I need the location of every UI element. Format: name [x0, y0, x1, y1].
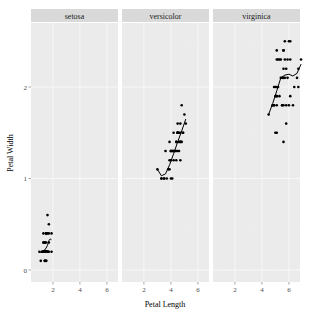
- data-point: [284, 40, 287, 43]
- data-point: [163, 177, 166, 180]
- data-point: [300, 58, 303, 61]
- faceted-scatter-chart: setosa246versicolor246virginica246 012 P…: [0, 0, 310, 318]
- data-point: [42, 232, 45, 235]
- facet-virginica: virginica246: [213, 9, 302, 294]
- data-point: [296, 77, 299, 80]
- x-tick-label: 4: [260, 286, 264, 294]
- strip-label: setosa: [65, 12, 85, 21]
- y-tick-label: 1: [24, 175, 28, 183]
- data-point: [160, 177, 163, 180]
- x-tick-label: 2: [51, 286, 55, 294]
- x-axis-title: Petal Length: [145, 300, 186, 309]
- facet-versicolor: versicolor246: [122, 9, 209, 294]
- data-point: [176, 131, 179, 134]
- data-point: [183, 113, 186, 116]
- y-axis: 012: [24, 84, 32, 275]
- y-tick-label: 2: [24, 84, 28, 92]
- data-point: [282, 141, 285, 144]
- data-point: [44, 260, 47, 263]
- data-point: [164, 150, 167, 153]
- strip-label: virginica: [242, 12, 271, 21]
- data-point: [281, 104, 284, 107]
- data-point: [175, 159, 178, 162]
- data-point: [285, 104, 288, 107]
- data-point: [275, 104, 278, 107]
- data-point: [178, 150, 181, 153]
- data-point: [277, 58, 280, 61]
- data-point: [46, 214, 49, 217]
- panel-background: [122, 23, 209, 282]
- facet-panels: setosa246versicolor246virginica246: [31, 9, 302, 294]
- data-point: [288, 104, 291, 107]
- data-point: [166, 177, 169, 180]
- data-point: [284, 58, 287, 61]
- data-point: [275, 49, 278, 52]
- data-point: [48, 223, 51, 226]
- data-point: [44, 241, 47, 244]
- x-tick-label: 6: [196, 286, 200, 294]
- y-axis-title: Petal Width: [6, 134, 15, 172]
- data-point: [280, 58, 283, 61]
- data-point: [50, 250, 53, 253]
- data-point: [180, 141, 183, 144]
- data-point: [171, 177, 174, 180]
- data-point: [275, 131, 278, 134]
- panel-background: [213, 23, 300, 282]
- data-point: [285, 67, 288, 70]
- data-point: [273, 86, 276, 89]
- strip-label: versicolor: [150, 12, 182, 21]
- data-point: [289, 58, 292, 61]
- data-point: [289, 95, 292, 98]
- facet-setosa: setosa246: [31, 9, 118, 294]
- data-point: [172, 131, 175, 134]
- data-point: [182, 131, 185, 134]
- data-point: [286, 77, 289, 80]
- data-point: [45, 232, 48, 235]
- data-point: [282, 49, 285, 52]
- data-point: [292, 104, 295, 107]
- data-point: [179, 159, 182, 162]
- x-tick-label: 6: [105, 286, 109, 294]
- data-point: [293, 86, 296, 89]
- x-tick-label: 2: [233, 286, 237, 294]
- data-point: [50, 232, 53, 235]
- data-point: [168, 141, 171, 144]
- data-point: [289, 40, 292, 43]
- data-point: [39, 260, 42, 263]
- data-point: [286, 58, 289, 61]
- x-tick-label: 6: [287, 286, 291, 294]
- data-point: [285, 122, 288, 125]
- data-point: [171, 150, 174, 153]
- data-point: [278, 95, 281, 98]
- data-point: [282, 67, 285, 70]
- data-point: [176, 122, 179, 125]
- data-point: [179, 122, 182, 125]
- y-tick-label: 0: [24, 267, 28, 275]
- x-tick-label: 2: [142, 286, 146, 294]
- data-point: [180, 104, 183, 107]
- data-point: [297, 86, 300, 89]
- x-tick-label: 4: [169, 286, 173, 294]
- data-point: [172, 159, 175, 162]
- x-tick-label: 4: [78, 286, 82, 294]
